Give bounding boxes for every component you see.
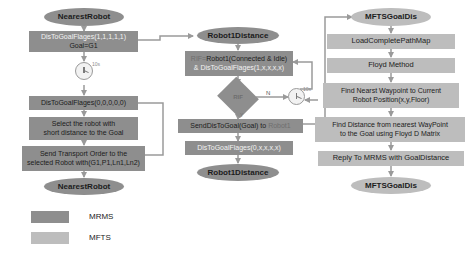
reply-label: Reply To MRMS with GoalDistance	[333, 154, 450, 163]
box-select-robot: Select the robot with short distance to …	[29, 117, 138, 140]
flowchart-canvas: NearestRobot DisToGoalFlages(1,1,1,1,1) …	[0, 0, 467, 260]
box-floyd-method: Floyd Method	[327, 58, 455, 73]
box-reply-to-mrms: Reply To MRMS with GoalDistance	[318, 151, 464, 166]
clear-flags-label: DisToGoalFlages(0,0,0,0,0)	[41, 99, 126, 107]
terminal-label: NearestRobot	[58, 182, 110, 191]
step-label: Floyd Method	[368, 61, 413, 70]
update-flags-label: DisToGoalFlages(0,x,x,x,x)	[197, 144, 281, 152]
step-label: LoadCompletePathMap	[352, 37, 431, 46]
decision-robot1-if: RIF	[222, 84, 254, 111]
box-update-distance-flags: DisToGoalFlages(0,x,x,x,x)	[185, 141, 293, 155]
select-robot-line1: Select the robot with	[52, 120, 115, 128]
condition-line2: & DisToGoalFlages(1,x,x,x,x)	[194, 64, 284, 72]
legend-swatch-mfts	[31, 232, 69, 244]
find-waypoint-line2: Robot Position(x,y,Floor)	[353, 96, 430, 104]
terminal-mfts-goal-dis-start: MFTSGoalDis	[351, 8, 431, 26]
terminal-robot1-distance-bottom: Robot1Distance	[197, 164, 279, 181]
send-order-line2: selected Robot with(G1,P1,Ln1,Ln2)	[27, 159, 140, 167]
terminal-label: Robot1Distance	[208, 168, 269, 177]
decision-label: RIF	[233, 94, 243, 101]
set-flags-line1: DisToGoalFlages(1,1,1,1,1)	[41, 33, 126, 41]
box-find-nearest-waypoint: Find Nearst Waypoint to Current Robot Po…	[323, 83, 459, 108]
legend-label-mrms: MRMS	[89, 212, 113, 221]
terminal-nearest-robot-end: NearestRobot	[44, 178, 124, 195]
condition-line1: RIF=Robot1(Connected & Idle)	[191, 55, 287, 63]
box-clear-distance-flags: DisToGoalFlages(0,0,0,0,0)	[29, 96, 138, 110]
box-send-distance-request: SendDisToGoal(Goal) to Robot1	[178, 119, 303, 133]
box-set-distance-flags: DisToGoalFlages(1,1,1,1,1) Goal=G1	[29, 31, 138, 52]
terminal-label: MFTSGoalDis	[365, 12, 417, 21]
terminal-label: Robot1Distance	[208, 31, 269, 40]
box-robot1-condition: RIF=Robot1(Connected & Idle) & DisToGoal…	[185, 51, 293, 76]
find-distance-line1: Find Distance from nearest WayPoint	[332, 121, 448, 129]
box-send-transport-order: Send Transport Order to the selected Rob…	[22, 146, 145, 171]
send-order-line1: Send Transport Order to the	[40, 150, 127, 158]
timer-label-left: 10s	[92, 61, 100, 67]
terminal-robot1-distance-top: Robot1Distance	[197, 27, 279, 44]
decision-no-label: N	[266, 90, 270, 96]
send-request-label: SendDisToGoal(Goal) to Robot1	[190, 122, 290, 130]
terminal-nearest-robot-start: NearestRobot	[44, 8, 124, 26]
box-load-complete-path-map: LoadCompletePathMap	[327, 34, 455, 49]
select-robot-line2: short distance to the Goal	[44, 129, 124, 137]
timer-label-middle: 10s	[303, 86, 311, 92]
terminal-label: NearestRobot	[58, 12, 110, 21]
set-flags-line2: Goal=G1	[69, 42, 97, 50]
decision-yes-label: Y	[240, 112, 243, 118]
timer-icon-left	[75, 62, 93, 80]
legend-swatch-mrms	[31, 211, 69, 223]
terminal-label: MFTSGoalDis	[365, 181, 417, 190]
terminal-mfts-goal-dis-end: MFTSGoalDis	[351, 177, 431, 194]
find-waypoint-line1: Find Nearst Waypoint to Current	[341, 87, 441, 95]
legend-label-mfts: MFTS	[89, 233, 111, 242]
box-find-distance-floyd: Find Distance from nearest WayPoint to t…	[315, 117, 465, 142]
find-distance-line2: to the Goal using Floyd D Matrix	[340, 130, 440, 138]
